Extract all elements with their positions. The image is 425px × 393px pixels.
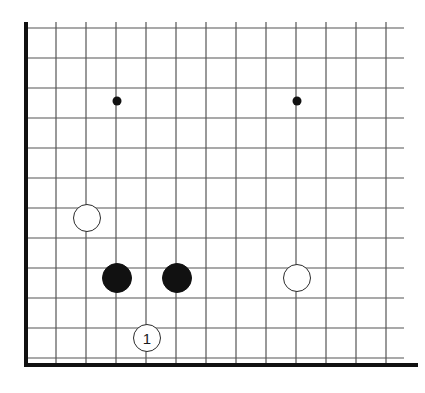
white-stone-move-1-label: 1 [134,325,160,351]
white-stone-move-1[interactable]: 1 [133,324,161,352]
go-board-figure: 1 [0,0,425,393]
black-stone-left[interactable] [102,263,132,293]
black-stone-right[interactable] [162,263,192,293]
white-stone-upper-left[interactable] [73,204,101,232]
stones-layer: 1 [0,0,425,393]
white-stone-right[interactable] [283,264,311,292]
